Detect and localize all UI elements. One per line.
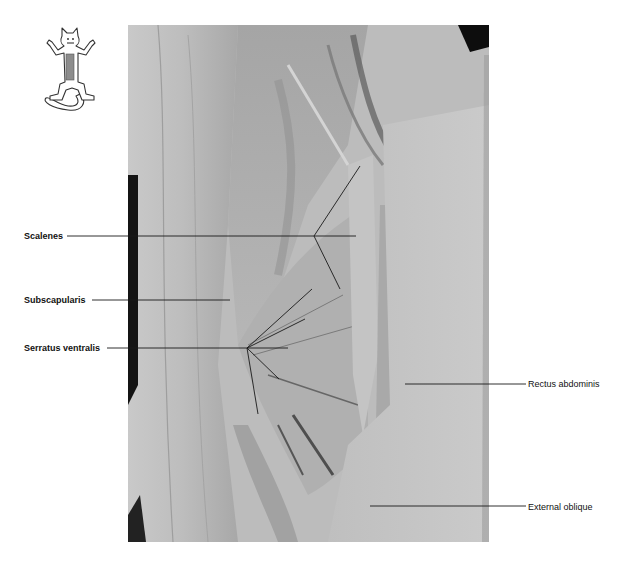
label-serratus-ventralis: Serratus ventralis [24,343,100,353]
dissection-photo [128,25,489,542]
label-scalenes: Scalenes [24,231,63,241]
label-subscapularis: Subscapularis [24,295,86,305]
label-external-oblique: External oblique [528,502,593,512]
anatomy-figure: Scalenes Subscapularis Serratus ventrali… [0,0,623,563]
cat-orientation-icon [38,22,108,112]
label-rectus-abdominis: Rectus abdominis [528,379,600,389]
